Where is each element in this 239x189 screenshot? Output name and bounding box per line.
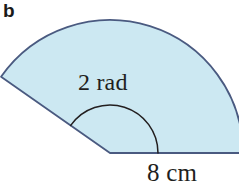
figure-container: b 2 rad 8 cm — [0, 0, 239, 189]
radius-label: 8 cm — [147, 158, 197, 187]
part-label-b: b — [3, 0, 14, 22]
angle-label: 2 rad — [78, 68, 128, 96]
